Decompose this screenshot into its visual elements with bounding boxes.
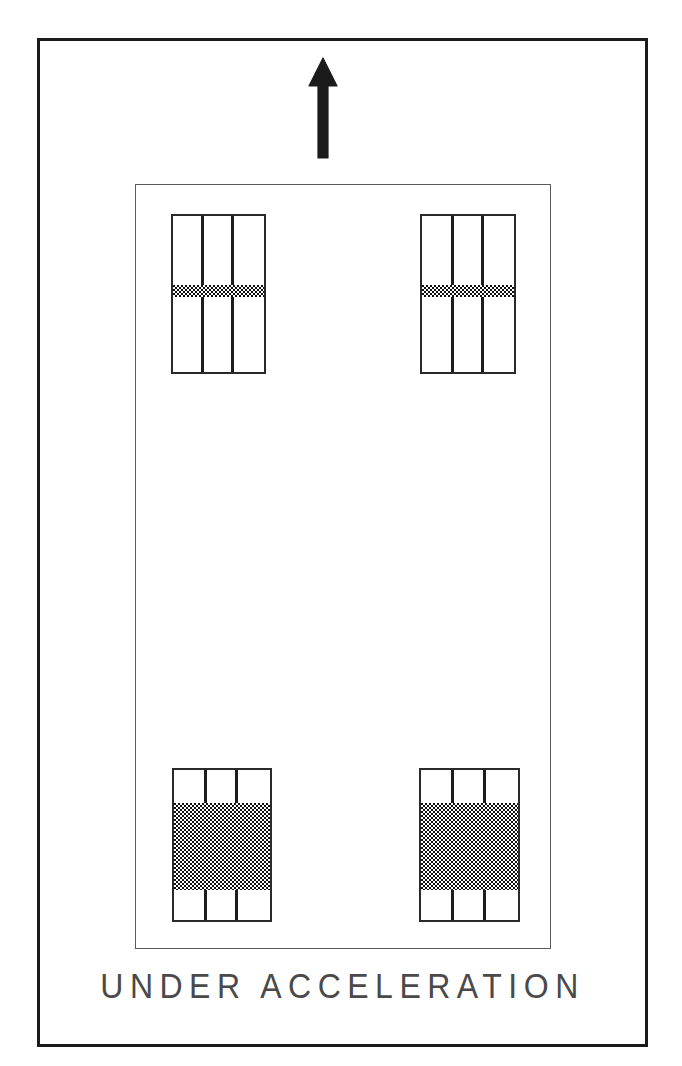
contact-patch-rear-right xyxy=(419,803,520,890)
tire-rear-right xyxy=(419,768,520,922)
contact-patch-front-left xyxy=(171,285,266,297)
diagram-caption: UNDER ACCELERATION xyxy=(37,966,648,1007)
tire-rear-left xyxy=(172,768,272,922)
direction-of-travel-arrow xyxy=(306,56,340,160)
tire-loading-diagram: UNDER ACCELERATION xyxy=(0,0,682,1066)
contact-patch-rear-left xyxy=(172,803,272,890)
tire-front-right xyxy=(420,214,516,374)
tire-front-left xyxy=(171,214,266,374)
contact-patch-front-right xyxy=(420,285,516,297)
